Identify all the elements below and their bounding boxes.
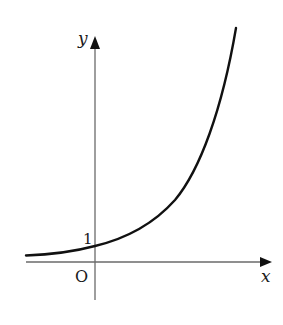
y-intercept-label: 1 [83, 230, 93, 248]
y-axis-arrow-icon [90, 36, 100, 49]
exponential-curve [26, 28, 236, 256]
x-axis-label: x [261, 266, 271, 286]
origin-label: O [75, 267, 88, 286]
y-axis-label: y [77, 28, 88, 48]
exponential-graph: y x O 1 [0, 0, 283, 325]
